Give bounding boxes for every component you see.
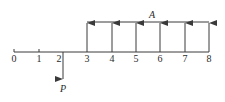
tick-label-0: 0	[12, 53, 17, 64]
tick-label-4: 4	[110, 53, 115, 64]
outflow-label-p: P	[59, 83, 66, 94]
tick-label-7: 7	[183, 53, 188, 64]
tick-label-8: 8	[207, 53, 212, 64]
tick-label-5: 5	[134, 53, 139, 64]
tick-label-1: 1	[37, 53, 42, 64]
axis-tick-labels: 0 1 2 3 4 5 6 7 8	[12, 53, 212, 64]
tick-label-2: 2	[57, 53, 62, 64]
cash-flow-diagram: 0 1 2 3 4 5 6 7 8 P A	[0, 0, 225, 102]
diagram-svg: 0 1 2 3 4 5 6 7 8 P A	[0, 0, 225, 102]
tick-label-3: 3	[85, 53, 90, 64]
annuity-label-a: A	[148, 9, 156, 20]
annuity-arrows	[87, 23, 209, 52]
tick-label-6: 6	[158, 53, 163, 64]
